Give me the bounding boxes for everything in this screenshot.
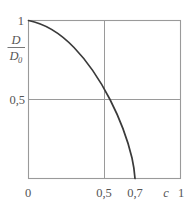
- ylabel-fraction: D D 0: [8, 33, 26, 65]
- ylabel-denominator-subscript: 0: [18, 55, 23, 65]
- ytick-label-0-5: 0,5: [9, 93, 25, 107]
- ytick-label-1: 1: [18, 14, 24, 28]
- xtick-label-0-7: 0,7: [127, 186, 143, 200]
- xtick-label-1: 1: [178, 186, 184, 200]
- plot-svg: 1 0,5 D D 0 0 0,5 0,7 1 c: [0, 0, 194, 208]
- xtick-label-0: 0: [25, 186, 31, 200]
- xaxis-variable-label: c: [163, 186, 169, 200]
- figure-container: 1 0,5 D D 0 0 0,5 0,7 1 c: [0, 0, 194, 208]
- ylabel-numerator: D: [10, 33, 20, 47]
- xtick-label-0-5: 0,5: [96, 186, 112, 200]
